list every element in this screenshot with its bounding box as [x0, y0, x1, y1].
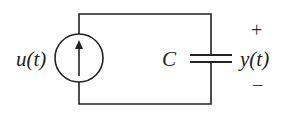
- output-label: y(t): [240, 49, 269, 70]
- bottom-wire: [79, 62, 211, 104]
- capacitor-label: C: [162, 49, 176, 70]
- arrow-head-icon: [75, 40, 83, 49]
- minus-sign: −: [252, 75, 263, 95]
- source-label: u(t): [16, 49, 46, 70]
- circuit-diagram: u(t) C y(t) + −: [0, 0, 282, 113]
- top-wire: [79, 14, 211, 55]
- plus-sign: +: [251, 20, 262, 40]
